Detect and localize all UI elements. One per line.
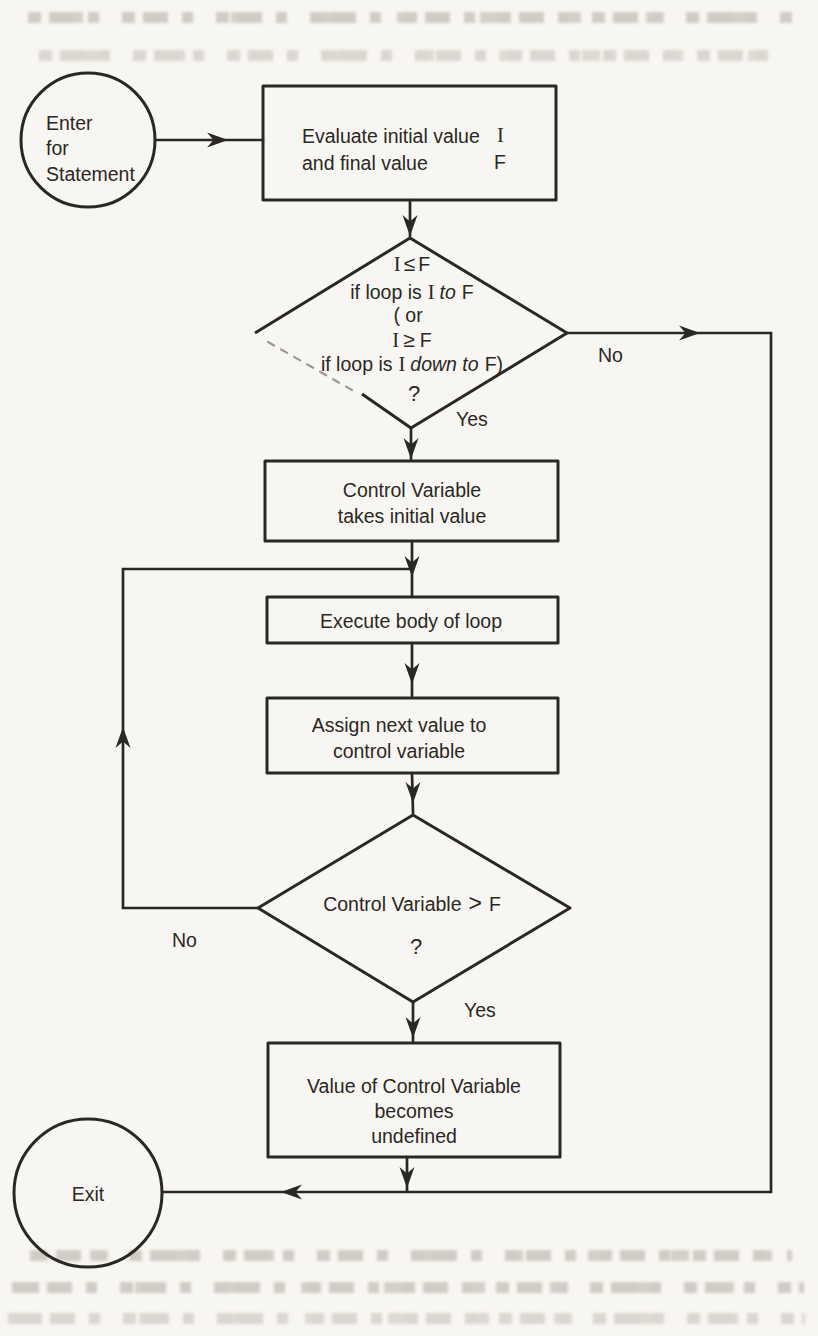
node-loop-test-decision: Control Variable>F ?	[258, 815, 570, 1002]
init-line2: takes initial value	[338, 505, 487, 527]
enter-label-line3: Statement	[46, 163, 135, 185]
node-assign-next-value: Assign next value to control variable	[267, 698, 558, 773]
enter-label-line1: Enter	[46, 112, 93, 134]
cond2-question-mark: ?	[410, 934, 422, 959]
init-box	[265, 461, 558, 541]
cond1-no-label: No	[598, 344, 623, 366]
cond2-no-label: No	[172, 929, 197, 951]
cond1-question-mark: ?	[408, 381, 420, 406]
cond1-line1: I≤F	[394, 252, 430, 275]
body-line1: Execute body of loop	[320, 610, 502, 632]
cond2-line1: Control Variable>F	[323, 890, 501, 916]
enter-label-line2: for	[46, 137, 69, 159]
node-evaluate-process: Evaluate initial value I and final value…	[263, 86, 556, 200]
cond1-line3: ( or	[393, 304, 423, 326]
undefined-line3: undefined	[371, 1125, 457, 1147]
node-init-control-variable: Control Variable takes initial value	[265, 461, 558, 541]
node-value-undefined: Value of Control Variable becomes undefi…	[268, 1043, 560, 1157]
edge-cond1-no-branch	[567, 333, 771, 1192]
cond1-line5: if loop isIdown toF)	[321, 353, 503, 375]
next-line2: control variable	[333, 740, 465, 762]
enter-circle	[21, 73, 155, 207]
node-initial-test-decision: I≤F if loop isItoF ( or I≥F if loop isId…	[255, 238, 567, 428]
cond2-yes-label: Yes	[464, 999, 496, 1021]
init-line1: Control Variable	[343, 479, 481, 501]
next-line1: Assign next value to	[312, 714, 487, 736]
evaluate-line1: Evaluate initial value	[302, 125, 480, 147]
evaluate-line2: and final value	[302, 152, 428, 174]
scanned-book-page: Enter for Statement Evaluate initial val…	[0, 0, 818, 1336]
evaluate-var-initial: I	[497, 124, 504, 146]
for-loop-flowchart: Enter for Statement Evaluate initial val…	[0, 0, 818, 1336]
undefined-line1: Value of Control Variable	[307, 1075, 521, 1097]
undefined-line2: becomes	[374, 1100, 453, 1122]
cond1-yes-label: Yes	[456, 408, 488, 430]
cond1-line2: if loop isItoF	[350, 281, 474, 303]
exit-label: Exit	[72, 1183, 105, 1205]
node-exit-terminal: Exit	[14, 1119, 162, 1267]
node-enter-terminal: Enter for Statement	[21, 73, 155, 207]
cond1-line4: I≥F	[392, 328, 431, 351]
evaluate-var-final: F	[494, 151, 506, 173]
node-execute-body: Execute body of loop	[267, 597, 558, 643]
